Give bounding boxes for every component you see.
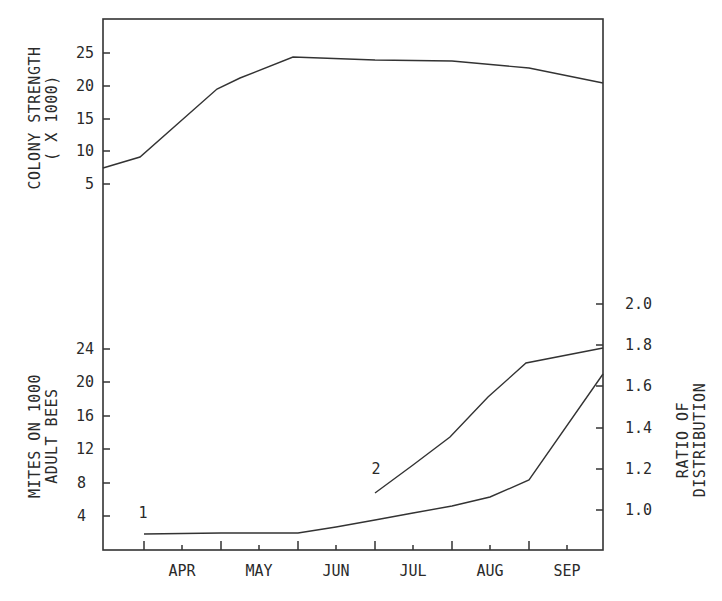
right-tick-1.4: 1.4 bbox=[625, 419, 652, 437]
left-tick-8: 8 bbox=[77, 474, 86, 492]
svg-text:ADULT BEES: ADULT BEES bbox=[43, 388, 61, 483]
month-jul: JUL bbox=[399, 562, 426, 580]
top-tick-20: 20 bbox=[76, 77, 94, 95]
left-tick-16: 16 bbox=[76, 407, 94, 425]
chart-canvas: 25 20 15 10 5 COLONY STRENGTH ( X 1000) … bbox=[0, 0, 722, 601]
top-tick-15: 15 bbox=[76, 110, 94, 128]
x-axis-month-labels: APR MAY JUN JUL AUG SEP bbox=[168, 562, 580, 580]
bottom-left-y-axis-title: MITES ON 1000 ADULT BEES bbox=[26, 374, 61, 498]
top-y-axis-ticks bbox=[103, 53, 110, 184]
top-tick-5: 5 bbox=[85, 175, 94, 193]
bottom-left-y-axis-labels: 24 20 16 12 8 4 bbox=[76, 340, 94, 525]
right-tick-2.0: 2.0 bbox=[625, 295, 652, 313]
left-tick-20: 20 bbox=[76, 373, 94, 391]
colony-strength-line bbox=[103, 57, 603, 168]
left-tick-12: 12 bbox=[76, 440, 94, 458]
top-y-axis-labels: 25 20 15 10 5 bbox=[76, 44, 94, 193]
svg-text:( X 1000): ( X 1000) bbox=[43, 75, 61, 161]
right-tick-1.8: 1.8 bbox=[625, 336, 652, 354]
right-y-axis-ticks bbox=[596, 304, 603, 510]
left-tick-24: 24 bbox=[76, 340, 94, 358]
right-tick-1.6: 1.6 bbox=[625, 377, 652, 395]
top-tick-25: 25 bbox=[76, 44, 94, 62]
month-aug: AUG bbox=[476, 562, 503, 580]
month-jun: JUN bbox=[322, 562, 349, 580]
right-y-axis-title: RATIO OF DISTRIBUTION bbox=[674, 383, 709, 497]
series-2-ratio-line bbox=[375, 348, 603, 493]
month-apr: APR bbox=[168, 562, 196, 580]
series-1-mites-line bbox=[144, 374, 603, 534]
plot-frame bbox=[103, 19, 603, 550]
svg-text:DISTRIBUTION: DISTRIBUTION bbox=[691, 383, 709, 497]
left-tick-4: 4 bbox=[77, 507, 86, 525]
svg-text:COLONY STRENGTH: COLONY STRENGTH bbox=[26, 47, 44, 190]
top-tick-10: 10 bbox=[76, 142, 94, 160]
top-y-axis-title: COLONY STRENGTH ( X 1000) bbox=[26, 47, 61, 190]
right-y-axis-labels: 2.0 1.8 1.6 1.4 1.2 1.0 bbox=[625, 295, 652, 519]
series-2-marker: 2 bbox=[371, 460, 380, 478]
series-1-marker: 1 bbox=[138, 504, 147, 522]
bottom-left-y-axis-ticks bbox=[103, 349, 110, 516]
right-tick-1.0: 1.0 bbox=[625, 501, 652, 519]
svg-text:RATIO OF: RATIO OF bbox=[674, 402, 692, 478]
month-sep: SEP bbox=[553, 562, 580, 580]
month-may: MAY bbox=[245, 562, 272, 580]
right-tick-1.2: 1.2 bbox=[625, 460, 652, 478]
x-axis-ticks bbox=[144, 541, 567, 550]
svg-text:MITES ON 1000: MITES ON 1000 bbox=[26, 374, 44, 498]
